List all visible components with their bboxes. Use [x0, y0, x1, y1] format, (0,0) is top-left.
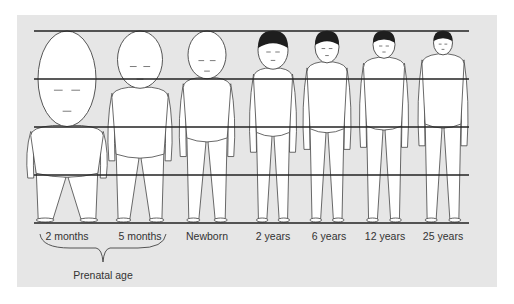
prenatal-age-label: Prenatal age — [73, 269, 133, 281]
right-leg — [328, 125, 344, 219]
torso — [422, 54, 464, 128]
left-foot — [425, 218, 437, 222]
torso — [31, 126, 104, 178]
left-foot — [116, 218, 131, 222]
figure-label-2-years: 2 years — [256, 230, 290, 242]
left-foot — [367, 218, 379, 222]
right-foot — [80, 218, 98, 222]
left-leg — [116, 150, 139, 219]
torso — [364, 57, 405, 130]
left-leg — [187, 134, 206, 219]
right-foot — [390, 218, 402, 222]
proportions-illustration — [0, 0, 514, 304]
right-foot — [149, 218, 164, 222]
left-foot — [187, 218, 200, 222]
right-leg — [208, 134, 227, 219]
head — [188, 31, 226, 79]
left-foot — [256, 218, 267, 222]
figure-label-2-months: 2 months — [45, 230, 88, 242]
figure-label-newborn: Newborn — [186, 230, 228, 242]
figure-label-6-years: 6 years — [312, 230, 346, 242]
right-foot — [332, 218, 344, 222]
left-leg — [256, 128, 272, 219]
torso — [183, 78, 231, 142]
torso — [307, 62, 347, 133]
right-leg — [141, 150, 164, 219]
figure-label-25-years: 25 years — [423, 230, 463, 242]
left-foot — [36, 218, 54, 222]
right-foot — [214, 218, 227, 222]
left-leg — [425, 120, 442, 219]
right-leg — [444, 120, 461, 219]
left-leg — [367, 122, 383, 219]
torso — [112, 87, 168, 158]
right-leg — [385, 122, 401, 219]
figure-label-12-years: 12 years — [365, 230, 405, 242]
right-foot — [278, 218, 289, 222]
right-foot — [449, 218, 461, 222]
left-foot — [310, 218, 322, 222]
left-leg — [310, 125, 326, 219]
figure-label-5-months: 5 months — [118, 230, 161, 242]
right-leg — [274, 128, 290, 219]
